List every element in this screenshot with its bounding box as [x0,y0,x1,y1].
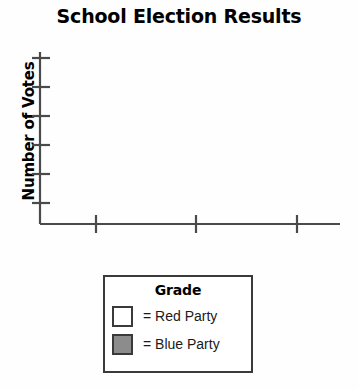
chart-canvas: School Election Results Number of Votes [0,0,358,389]
x-axis-ticks [96,215,297,233]
legend-item-blue-party: = Blue Party [105,330,251,358]
legend-items: = Red Party = Blue Party [105,302,251,358]
legend-swatch-red-party [112,306,133,327]
legend-title: Grade [105,282,251,298]
legend-label-red-party: = Red Party [143,308,217,324]
page-title: School Election Results [0,5,358,27]
chart-legend: Grade = Red Party = Blue Party [103,275,253,373]
y-axis-label: Number of Votes [20,62,38,201]
y-axis-label-container: Number of Votes [18,46,40,216]
legend-label-blue-party: = Blue Party [143,336,220,352]
legend-swatch-blue-party [112,334,133,355]
legend-item-red-party: = Red Party [105,302,251,330]
